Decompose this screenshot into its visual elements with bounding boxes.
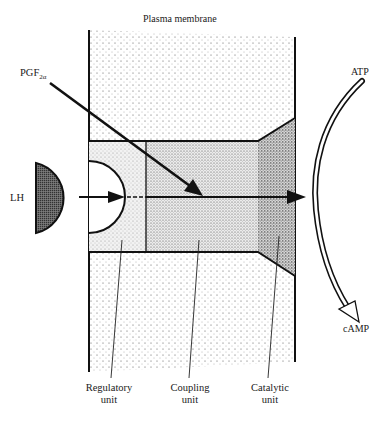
plasma-membrane-label: Plasma membrane (143, 13, 217, 24)
coupling-unit-label: Couplingunit (155, 382, 225, 406)
catalytic-unit-label: Catalyticunit (235, 382, 305, 406)
camp-label: cAMP (343, 323, 369, 334)
regulatory-unit-label: Regulatoryunit (74, 382, 144, 406)
lh-label: LH (10, 192, 24, 203)
atp-label: ATP (351, 66, 369, 77)
lh-hormone-icon (36, 163, 64, 233)
adenylate-cyclase-diagram (0, 0, 391, 424)
atp-to-camp-arrow (315, 81, 362, 322)
pgf-label: PGF2α (20, 67, 46, 83)
